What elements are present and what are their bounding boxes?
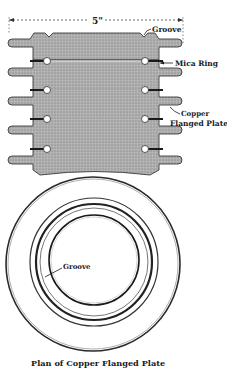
figure-caption: Plan of Copper Flanged Plate bbox=[31, 358, 165, 368]
plate-5 bbox=[8, 149, 182, 175]
plate-2 bbox=[8, 60, 182, 90]
label-mica-ring: Mica Ring bbox=[160, 59, 219, 68]
svg-text:Mica Ring: Mica Ring bbox=[175, 59, 219, 68]
dimension-label: 5" bbox=[92, 16, 103, 26]
svg-text:Groove: Groove bbox=[152, 25, 182, 34]
plate-3 bbox=[8, 90, 182, 119]
plate-stack bbox=[8, 33, 182, 175]
label-copper-flanged-plate: Copper Flanged Plate bbox=[170, 107, 227, 128]
plan-view bbox=[6, 177, 180, 351]
plate-1 bbox=[8, 33, 182, 60]
copper-plate-diagram: 5" bbox=[0, 0, 227, 368]
plate-4 bbox=[8, 119, 182, 149]
svg-text:Flanged Plate: Flanged Plate bbox=[170, 119, 227, 128]
svg-text:Copper: Copper bbox=[181, 109, 209, 118]
svg-text:Groove: Groove bbox=[63, 262, 91, 271]
